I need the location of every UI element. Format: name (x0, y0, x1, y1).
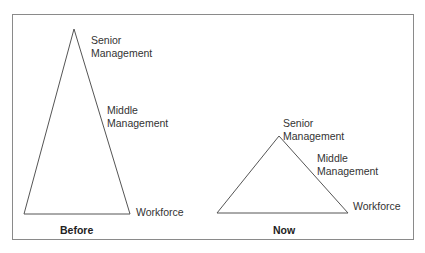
now-middle-management-label: Middle Management (317, 152, 378, 178)
now-middle-line2: Management (317, 165, 378, 178)
now-senior-management-label: Senior Management (283, 117, 344, 143)
now-caption: Now (273, 224, 295, 236)
before-middle-line1: Middle (107, 104, 168, 117)
now-workforce-label: Workforce (353, 200, 401, 213)
before-workforce-label: Workforce (136, 206, 184, 219)
before-senior-line2: Management (91, 47, 152, 60)
before-middle-line2: Management (107, 117, 168, 130)
triangles-canvas (0, 0, 425, 253)
now-middle-line1: Middle (317, 152, 378, 165)
now-senior-line1: Senior (283, 117, 344, 130)
before-middle-management-label: Middle Management (107, 104, 168, 130)
now-senior-line2: Management (283, 130, 344, 143)
before-caption: Before (60, 224, 93, 236)
before-senior-management-label: Senior Management (91, 34, 152, 60)
before-senior-line1: Senior (91, 34, 152, 47)
